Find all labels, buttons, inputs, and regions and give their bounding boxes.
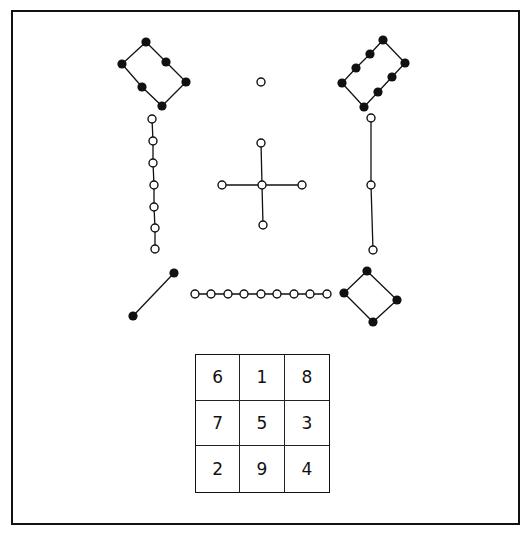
magic-square-cell: 9 [240,446,284,492]
filled-dot [117,59,126,68]
filled-dot [181,77,190,86]
open-dot [369,246,377,254]
filled-dot [365,49,374,58]
open-dot [207,290,215,298]
filled-dot [359,102,368,111]
open-dot [257,78,265,86]
filled-dot [161,57,170,66]
filled-pair-2-figure [128,268,178,320]
filled-dot [392,295,401,304]
open-dot [257,139,265,147]
connector-line [122,42,186,106]
open-dot [306,290,314,298]
open-dot [151,245,159,253]
filled-dot [362,266,371,275]
open-dot [273,290,281,298]
open-dot [148,115,156,123]
open-dot [149,159,157,167]
open-dot [259,221,267,229]
open-dot [367,181,375,189]
magic-square-cell: 7 [196,401,240,447]
magic-square-cell: 2 [196,446,240,492]
filled-dot [157,101,166,110]
magic-square-cell: 4 [285,446,329,492]
open-cross-5-figure [218,139,306,229]
connector-line [262,185,263,225]
connector-line [344,271,397,322]
open-dot [323,290,331,298]
open-dot [218,181,226,189]
magic-square-cell: 5 [240,401,284,447]
filled-dot [337,78,346,87]
filled-dot [141,37,150,46]
open-chain-9-figure [191,290,331,298]
magic-square-grid: 6 1 8 7 5 3 2 9 4 [195,354,330,493]
filled-dot [351,63,360,72]
magic-square-cell: 8 [285,355,329,401]
connector-line [342,40,405,107]
filled-dot [373,87,382,96]
filled-dot [137,82,146,91]
open-dot [151,224,159,232]
filled-loop-4-figure [339,266,401,326]
filled-dot [368,317,377,326]
filled-dot [378,35,387,44]
connector-line [261,143,262,185]
filled-dot [339,288,348,297]
open-dot [224,290,232,298]
filled-loop-8-figure [337,35,409,111]
filled-dot [400,58,409,67]
filled-loop-6-figure [117,37,190,110]
open-dot [191,290,199,298]
magic-square-cell: 1 [240,355,284,401]
open-dot [240,290,248,298]
open-dot [150,181,158,189]
open-dot [258,181,266,189]
open-dot [149,137,157,145]
filled-dot [169,268,178,277]
open-dot [367,114,375,122]
open-dot [257,290,265,298]
filled-dot [387,72,396,81]
open-dot [298,181,306,189]
open-dot [290,290,298,298]
magic-square-cell: 3 [285,401,329,447]
connector-line [133,273,174,316]
filled-dot [128,311,137,320]
magic-square-cell: 6 [196,355,240,401]
open-chain-3-figure [367,114,377,254]
open-chain-7-figure [148,115,159,253]
open-single-1-figure [257,78,265,86]
open-dot [150,203,158,211]
